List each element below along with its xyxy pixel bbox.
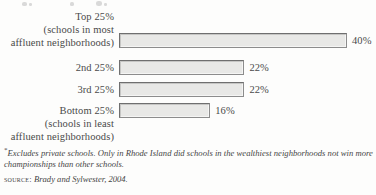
bar-value-label: 16% — [215, 103, 235, 118]
bar-track: 40% — [119, 33, 376, 48]
bar-category-label: 2nd 25% — [0, 61, 114, 74]
bar-value-label: 22% — [249, 60, 269, 75]
bar-rect — [119, 82, 244, 97]
source-label: Source: — [4, 174, 32, 184]
bar-category-label: 3rd 25% — [0, 83, 114, 96]
bar-category-label: Top 25% (schools in most affluent neighb… — [0, 10, 114, 50]
bar-value-label: 22% — [249, 82, 269, 97]
bar-track: 22% — [119, 82, 284, 97]
bar-rect — [119, 33, 347, 48]
source-line: Source: Brady and Sylwester, 2004. — [4, 174, 374, 185]
footnote-text: Excludes private schools. Only in Rhode … — [4, 148, 373, 169]
horizontal-bar-chart: Top 25% (schools in most affluent neighb… — [0, 0, 376, 146]
bar-rect — [119, 60, 244, 75]
footnote: *Excludes private schools. Only in Rhode… — [4, 145, 374, 171]
bar-rect — [119, 103, 210, 118]
bar-track: 22% — [119, 60, 284, 75]
chart-notes: *Excludes private schools. Only in Rhode… — [4, 145, 374, 185]
bar-value-label: 40% — [352, 33, 372, 48]
bar-track: 16% — [119, 103, 250, 118]
bar-category-label: Bottom 25% (schools in least affluent ne… — [0, 104, 114, 144]
source-text: Brady and Sylwester, 2004. — [34, 174, 128, 184]
